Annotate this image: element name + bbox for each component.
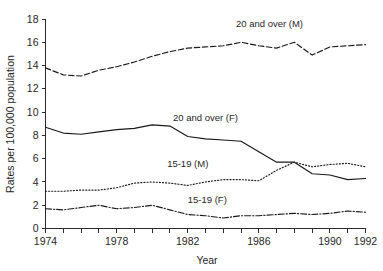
y-tick-label: 18	[27, 13, 39, 25]
y-tick-label: 6	[33, 152, 39, 164]
x-tick-label: 1986	[247, 235, 271, 247]
line-chart: 024681012141618 197419781982198619901992…	[0, 0, 383, 271]
x-axis-title: Year	[196, 254, 218, 266]
y-tick-label: 4	[33, 176, 39, 188]
y-tick-label: 10	[27, 106, 39, 118]
series-line-1	[46, 125, 366, 180]
x-tick-label: 1978	[105, 235, 129, 247]
y-tick-labels: 024681012141618	[27, 13, 39, 235]
series-label-3: 15-19 (F)	[188, 194, 227, 205]
series-line-0	[46, 42, 366, 76]
y-tick-label: 14	[27, 59, 39, 71]
series-label-2: 15-19 (M)	[167, 158, 208, 169]
y-tick-label: 12	[27, 82, 39, 94]
y-tick-label: 2	[33, 199, 39, 211]
chart-container: 024681012141618 197419781982198619901992…	[0, 0, 383, 271]
x-tick-label: 1982	[176, 235, 200, 247]
y-axis-title: Rates per 100,000 population	[4, 55, 16, 193]
x-tick-label: 1974	[34, 235, 58, 247]
series-lines	[46, 42, 366, 218]
x-tick-labels: 197419781982198619901992	[34, 235, 378, 247]
y-tick-label: 0	[33, 222, 39, 234]
series-label-1: 20 and over (F)	[173, 112, 238, 123]
x-tick-label: 1992	[354, 235, 378, 247]
y-tick-label: 16	[27, 36, 39, 48]
series-label-0: 20 and over (M)	[236, 18, 303, 29]
y-tick-label: 8	[33, 129, 39, 141]
series-line-3	[46, 205, 366, 218]
x-tick-label: 1990	[318, 235, 342, 247]
